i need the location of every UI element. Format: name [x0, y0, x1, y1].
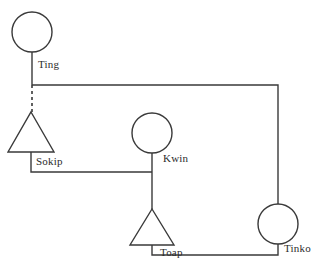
node-ting-circle[interactable]	[12, 12, 52, 52]
node-layer	[8, 12, 298, 245]
node-label-kwin: Kwin	[163, 152, 188, 164]
node-kwin-circle[interactable]	[132, 113, 172, 153]
node-label-tinko: Tinko	[284, 242, 311, 254]
node-label-ting: Ting	[38, 58, 59, 70]
node-tinko-circle[interactable]	[258, 204, 298, 244]
kinship-diagram: Ting Sokip Kwin Toap Tinko	[0, 0, 324, 274]
kinship-canvas	[0, 0, 324, 274]
node-sokip-triangle[interactable]	[8, 112, 54, 152]
node-label-sokip: Sokip	[36, 155, 63, 167]
node-label-toap: Toap	[160, 246, 183, 258]
node-toap-triangle[interactable]	[130, 209, 174, 245]
